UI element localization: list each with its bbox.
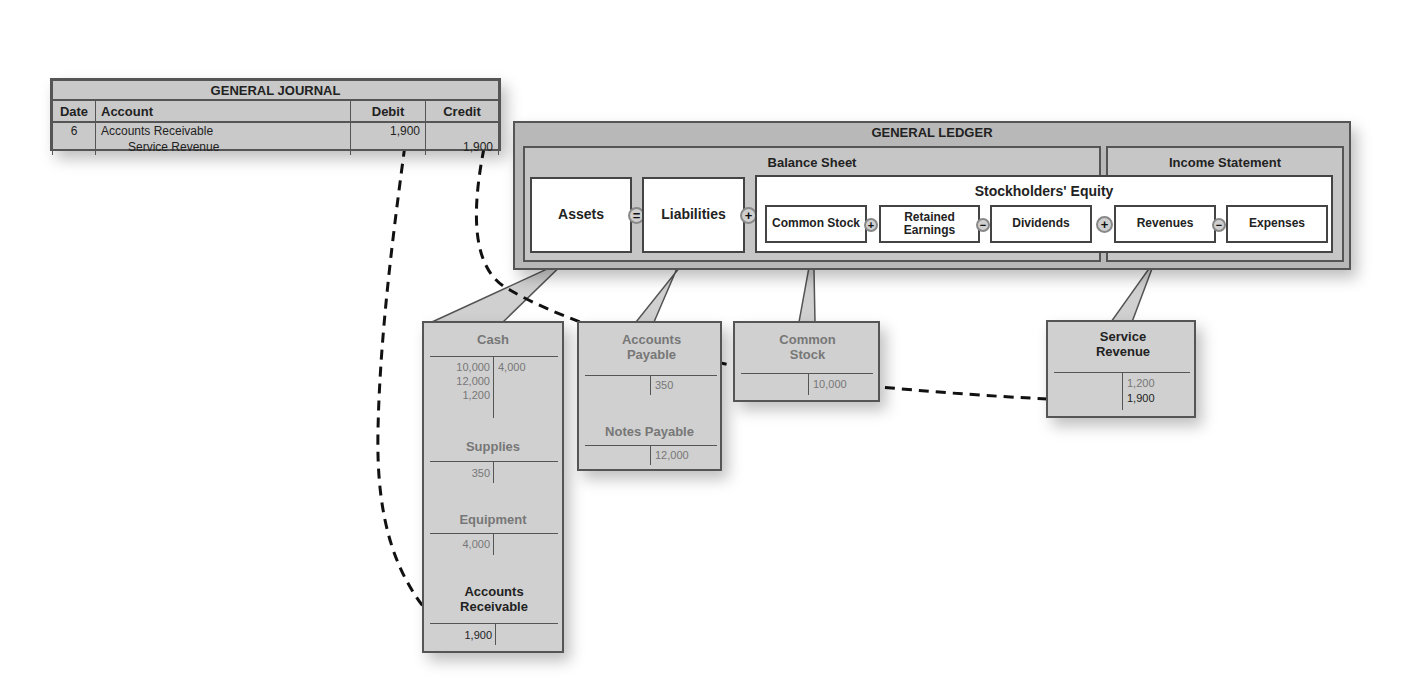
common-stock-box: Common Stock (765, 205, 867, 243)
journal-title: GENERAL JOURNAL (53, 81, 499, 101)
minus-icon: − (976, 218, 990, 232)
row-credit (426, 122, 499, 139)
row-account: Accounts Receivable (96, 122, 351, 139)
cash-credit: 4,000 (498, 361, 526, 374)
expenses-label: Expenses (1249, 217, 1305, 230)
service-revenue-account-panel: Service Revenue 1,200 1,900 (1046, 320, 1196, 418)
notes-payable-credit: 12,000 (655, 449, 689, 462)
liability-accounts-panel: Accounts Payable 350 Notes Payable 12,00… (577, 321, 722, 471)
assets-label: Assets (558, 207, 604, 222)
cash-debit: 12,000 (434, 375, 490, 388)
row-debit (351, 139, 426, 155)
accounts-receivable-debit: 1,900 (434, 629, 492, 642)
row-date: 6 (53, 122, 96, 139)
stockholders-equity-title: Stockholders' Equity (757, 183, 1331, 199)
service-revenue-credit: 1,200 (1127, 377, 1155, 390)
asset-accounts-panel: Cash 10,000 12,000 1,200 4,000 Supplies … (422, 321, 564, 653)
assets-box: Assets (530, 177, 632, 253)
col-date: Date (53, 100, 96, 122)
supplies-debit: 350 (434, 467, 490, 480)
dividends-box: Dividends (990, 205, 1092, 243)
expenses-box: Expenses (1226, 205, 1328, 243)
accounts-payable-credit: 350 (655, 379, 673, 392)
journal-row: 6 Accounts Receivable 1,900 (53, 122, 499, 139)
cash-title: Cash (424, 333, 562, 348)
general-journal: GENERAL JOURNAL Date Account Debit Credi… (50, 78, 501, 151)
dividends-label: Dividends (1012, 217, 1069, 230)
cash-debit: 10,000 (434, 361, 490, 374)
row-debit: 1,900 (351, 122, 426, 139)
col-debit: Debit (351, 100, 426, 122)
balance-sheet-title: Balance Sheet (525, 155, 1099, 170)
supplies-title: Supplies (424, 440, 562, 455)
notes-payable-title: Notes Payable (579, 425, 720, 440)
plus-icon: + (864, 218, 878, 232)
revenues-box: Revenues (1114, 205, 1216, 243)
service-revenue-title: Service Revenue (1083, 330, 1163, 360)
common-stock-credit: 10,000 (813, 378, 847, 391)
common-stock-title: Common Stock (775, 333, 840, 363)
row-credit: 1,900 (426, 139, 499, 155)
service-revenue-credit: 1,900 (1127, 392, 1155, 405)
liabilities-label: Liabilities (661, 207, 726, 222)
general-ledger: GENERAL LEDGER Balance Sheet Income Stat… (513, 121, 1351, 270)
equipment-debit: 4,000 (434, 538, 490, 551)
col-credit: Credit (426, 100, 499, 122)
liabilities-box: Liabilities (642, 177, 745, 253)
equipment-title: Equipment (424, 513, 562, 528)
journal-row: Service Revenue 1,900 (53, 139, 499, 155)
ledger-title: GENERAL LEDGER (515, 125, 1349, 140)
revenues-label: Revenues (1137, 217, 1194, 230)
row-account: Service Revenue (96, 139, 351, 155)
income-statement-title: Income Statement (1108, 155, 1342, 170)
cash-debit: 1,200 (434, 389, 490, 402)
common-stock-account-panel: Common Stock 10,000 (733, 321, 880, 402)
minus-icon: − (1212, 218, 1226, 232)
row-date (53, 139, 96, 155)
common-stock-label: Common Stock (772, 217, 860, 230)
retained-earnings-box: Retained Earnings (879, 205, 980, 243)
col-account: Account (96, 100, 351, 122)
retained-earnings-label: Retained Earnings (895, 211, 964, 237)
accounts-receivable-title: Accounts Receivable (449, 585, 539, 615)
accounts-payable-title: Accounts Payable (614, 333, 689, 363)
plus-icon: + (1096, 216, 1113, 233)
